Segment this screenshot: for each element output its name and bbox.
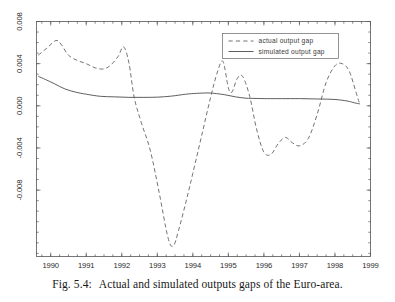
legend-layer: actual output gapsimulated output gap <box>223 34 339 59</box>
x-tick-label: 1993 <box>149 261 166 270</box>
legend-label: simulated output gap <box>259 48 325 56</box>
x-tick-label: 1996 <box>256 261 273 270</box>
figure-caption: Fig. 5.4:Actual and simulated outputs ga… <box>0 278 395 290</box>
legend-label: actual output gap <box>259 37 314 45</box>
x-tick-label: 1997 <box>291 261 308 270</box>
y-tick-label: 0.008 <box>15 12 24 31</box>
figure-number: Fig. 5.4: <box>52 278 92 290</box>
figure-caption-text: Actual and simulated outputs gaps of the… <box>99 278 343 290</box>
chart-plot-area: 1990199119921993199419951996199719981999… <box>0 0 395 302</box>
y-tick-label: 0.004 <box>15 54 24 73</box>
x-tick-label: 1999 <box>362 261 379 270</box>
x-tick-label: 1990 <box>42 261 59 270</box>
y-tick-label: -0.004 <box>15 137 24 158</box>
x-tick-label: 1995 <box>220 261 237 270</box>
y-tick-label: 0.000 <box>15 97 24 116</box>
x-tick-label: 1991 <box>78 261 95 270</box>
series-layer <box>38 40 360 246</box>
y-tick-label: -0.008 <box>15 180 24 201</box>
series-line-simulated-output-gap <box>38 76 360 104</box>
series-line-actual-output-gap <box>38 40 360 246</box>
x-tick-label: 1998 <box>327 261 344 270</box>
figure-container: 1990199119921993199419951996199719981999… <box>0 0 395 302</box>
x-tick-label: 1994 <box>185 261 202 270</box>
x-tick-label: 1992 <box>114 261 131 270</box>
